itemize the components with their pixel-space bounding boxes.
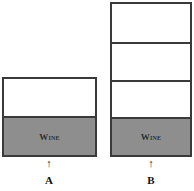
wine-label: Wine — [39, 132, 59, 142]
container-a-label: A — [42, 175, 56, 186]
container-b-empty-segment-2 — [112, 42, 190, 80]
up-arrow-icon: ↑ — [43, 158, 55, 169]
container-a-empty-segment — [4, 79, 95, 116]
up-arrow-icon: ↑ — [145, 158, 157, 169]
container-b-empty-segment-3 — [112, 80, 190, 117]
container-a-wine-segment: Wine — [4, 116, 95, 155]
container-b-empty-segment-1 — [112, 4, 190, 42]
wine-label: Wine — [141, 132, 161, 142]
container-a: Wine — [2, 77, 97, 157]
container-b-label: B — [144, 175, 158, 186]
container-b-wine-segment: Wine — [112, 117, 190, 155]
container-b: Wine — [110, 2, 192, 157]
